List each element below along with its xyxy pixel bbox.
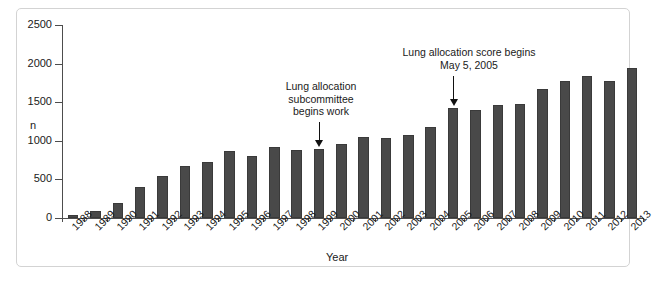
x-tick-label: 1997 (270, 207, 295, 232)
x-tick-label: 1990 (114, 207, 139, 232)
annotation-arrow-line (319, 122, 320, 141)
annotation-arrow-head (315, 140, 323, 147)
x-tick-label: 2001 (360, 207, 385, 232)
figure-container: 05001000150020002500 n 19881989199019911… (0, 0, 664, 283)
x-tick-label: 2012 (605, 207, 630, 232)
x-tick-label: 1993 (181, 207, 206, 232)
x-tick-label: 2004 (427, 207, 452, 232)
x-tick-label: 2010 (561, 207, 586, 232)
x-tick-label: 2007 (494, 207, 519, 232)
annotation-arrow-line (453, 76, 454, 100)
x-tick-label: 2003 (404, 207, 429, 232)
x-tick-label: 1988 (69, 207, 94, 232)
x-tick-label: 2009 (538, 207, 563, 232)
x-tick-label: 2005 (449, 207, 474, 232)
x-tick-label: 1995 (226, 207, 251, 232)
x-tick-label: 1998 (293, 207, 318, 232)
x-tick-label: 1989 (92, 207, 117, 232)
annotation-subcommittee: Lung allocation subcommittee begins work (258, 80, 384, 118)
x-tick-label: 2006 (471, 207, 496, 232)
x-tick-label: 1991 (136, 207, 161, 232)
x-tick-label: 1994 (203, 207, 228, 232)
x-tick-label: 2008 (516, 207, 541, 232)
x-tick-label: 1996 (248, 207, 273, 232)
x-axis-label: Year (326, 251, 348, 263)
x-axis-tick-labels: 1988198919901991199219931994199519961997… (0, 0, 664, 283)
x-tick-label: 1992 (159, 207, 184, 232)
x-tick-label: 2011 (583, 208, 607, 232)
x-tick-label: 1999 (315, 207, 340, 232)
x-tick-label: 2002 (382, 207, 407, 232)
annotation-arrow-head (450, 99, 458, 106)
annotation-score: Lung allocation score begins May 5, 2005 (366, 46, 572, 71)
x-tick-label: 2000 (337, 207, 362, 232)
x-tick-label: 2013 (628, 207, 653, 232)
